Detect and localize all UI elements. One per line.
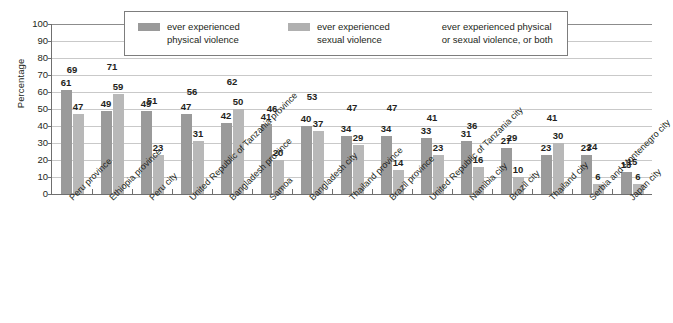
y-axis-ticks: 0102030405060708090100	[22, 24, 48, 194]
group-separator	[372, 189, 373, 194]
legend-label-line2: sexual violence	[317, 34, 390, 47]
y-tick-label: 80	[37, 53, 48, 63]
bar-value-label: 59	[113, 82, 124, 92]
bar-value-label: 31	[193, 129, 204, 139]
bar-value-label: 10	[513, 165, 524, 175]
legend-swatch	[288, 23, 310, 31]
both-value-label: 41	[547, 113, 558, 123]
legend-label: ever experienced physicalor sexual viole…	[442, 21, 553, 47]
group-separator	[212, 189, 213, 194]
group-separator	[572, 189, 573, 194]
x-axis-labels: Peru provinceEthiopia provincePeru cityU…	[51, 196, 651, 322]
group-separator	[92, 189, 93, 194]
both-value-label: 53	[307, 92, 318, 102]
bar-value-label: 29	[353, 133, 364, 143]
bar-value-label: 37	[313, 119, 324, 129]
y-tick-label: 40	[37, 121, 48, 131]
group-separator	[492, 189, 493, 194]
legend-item: ever experiencedsexual violence	[288, 21, 390, 47]
bar-value-label: 61	[61, 78, 72, 88]
group-separator	[172, 189, 173, 194]
bar-physical: 13	[621, 172, 632, 194]
legend-label-line1: ever experienced	[317, 21, 390, 34]
bar-physical: 40	[301, 126, 312, 194]
group-separator	[292, 189, 293, 194]
bar-value-label: 30	[553, 131, 564, 141]
bar-value-label: 33	[421, 126, 432, 136]
group-separator	[252, 189, 253, 194]
bar-physical: 47	[181, 114, 192, 194]
both-value-label: 24	[587, 142, 598, 152]
bar-value-label: 34	[381, 124, 392, 134]
both-value-label: 62	[227, 77, 238, 87]
legend-label-line1: ever experienced	[167, 21, 240, 34]
y-tick-label: 20	[37, 155, 48, 165]
group-separator	[412, 189, 413, 194]
bar-value-label: 6	[595, 172, 600, 182]
chart-legend: ever experiencedphysical violenceever ex…	[124, 11, 568, 56]
y-tick-label: 90	[37, 36, 48, 46]
legend-label: ever experiencedphysical violence	[167, 21, 240, 47]
bar-value-label: 23	[541, 143, 552, 153]
bar-pair: 614769	[52, 24, 92, 194]
bar-physical: 49	[101, 111, 112, 194]
bar-value-label: 49	[101, 99, 112, 109]
y-tick-mark	[48, 194, 52, 195]
group-separator	[332, 189, 333, 194]
both-value-label: 41	[427, 113, 438, 123]
y-tick-label: 70	[37, 70, 48, 80]
legend-swatch	[138, 23, 160, 31]
bar-value-label: 34	[341, 124, 352, 134]
group-separator	[532, 189, 533, 194]
legend-item: ever experiencedphysical violence	[138, 21, 240, 47]
legend-label-line2: physical violence	[167, 34, 240, 47]
both-value-label: 56	[187, 87, 198, 97]
group-separator	[612, 189, 613, 194]
both-value-label: 69	[67, 65, 78, 75]
bar-value-label: 40	[301, 114, 312, 124]
both-value-label: 71	[107, 62, 118, 72]
legend-item: ever experienced physicalor sexual viole…	[442, 21, 553, 47]
bar-value-label: 23	[433, 143, 444, 153]
bar-value-label: 50	[233, 97, 244, 107]
bar-group: 614769	[52, 24, 92, 194]
y-tick-label: 10	[37, 172, 48, 182]
both-value-label: 36	[467, 121, 478, 131]
y-tick-label: 100	[32, 19, 48, 29]
bar-value-label: 6	[635, 172, 640, 182]
legend-label-line2: or sexual violence, or both	[442, 34, 553, 47]
both-value-label: 29	[507, 133, 518, 143]
bar-physical: 61	[61, 90, 72, 194]
legend-label-line1: ever experienced physical	[442, 21, 553, 34]
both-value-label: 51	[147, 96, 158, 106]
group-separator	[452, 189, 453, 194]
bar-value-label: 47	[73, 102, 84, 112]
y-tick-label: 60	[37, 87, 48, 97]
bar-value-label: 47	[181, 102, 192, 112]
y-tick-label: 30	[37, 138, 48, 148]
bar-value-label: 42	[221, 111, 232, 121]
both-value-label: 47	[387, 103, 398, 113]
both-value-label: 47	[347, 103, 358, 113]
group-separator	[132, 189, 133, 194]
legend-label: ever experiencedsexual violence	[317, 21, 390, 47]
y-tick-label: 50	[37, 104, 48, 114]
